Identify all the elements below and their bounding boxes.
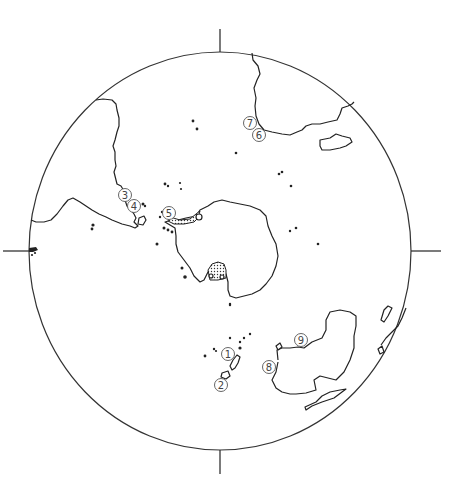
island-east-edge-2 xyxy=(378,346,384,354)
marker-2[interactable]: 2 xyxy=(215,379,228,392)
islands-west-edge xyxy=(29,247,38,252)
island-upper-right xyxy=(320,134,352,150)
marker-1[interactable]: 1 xyxy=(222,348,235,361)
marker-6-label: 6 xyxy=(256,130,262,141)
marker-2-label: 2 xyxy=(218,380,224,391)
marker-8-label: 8 xyxy=(266,362,272,373)
polar-map: 1 2 3 4 5 6 7 8 9 xyxy=(0,0,459,490)
marker-7-label: 7 xyxy=(247,118,253,129)
marker-3-label: 3 xyxy=(122,190,128,201)
island-lower-right-south xyxy=(305,389,346,410)
landmass-lower-right xyxy=(272,310,356,394)
marker-5-label: 5 xyxy=(166,208,172,219)
marker-3[interactable]: 3 xyxy=(119,189,132,202)
marker-8[interactable]: 8 xyxy=(263,361,276,374)
landmass-south-america xyxy=(31,99,138,228)
island-east-edge-1 xyxy=(381,306,392,322)
island-marker-2 xyxy=(221,371,230,379)
marker-5[interactable]: 5 xyxy=(163,207,176,220)
marker-1-label: 1 xyxy=(225,349,231,360)
marker-9-label: 9 xyxy=(298,335,304,346)
marker-4[interactable]: 4 xyxy=(128,200,141,213)
marker-4-label: 4 xyxy=(131,201,137,212)
marker-7[interactable]: 7 xyxy=(244,117,257,130)
island-near-tip xyxy=(138,216,146,225)
landmass-upper-right xyxy=(252,53,354,135)
marker-9[interactable]: 9 xyxy=(295,334,308,347)
marker-6[interactable]: 6 xyxy=(253,129,266,142)
landmass-antarctica xyxy=(165,200,278,298)
